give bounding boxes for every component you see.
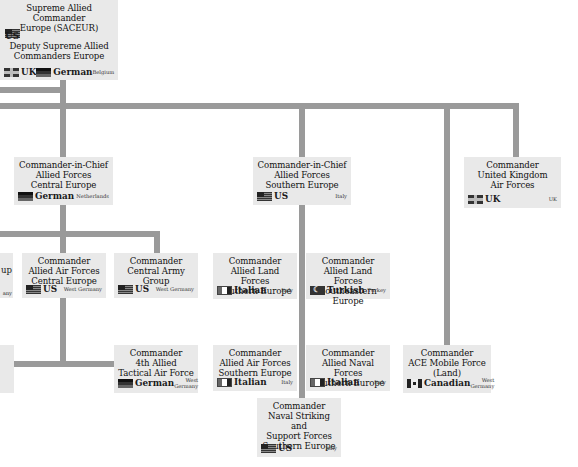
nationality: US <box>135 284 149 294</box>
italian-flag-icon <box>217 378 232 387</box>
node-title: Commander-in-Chief <box>257 160 347 170</box>
us-flag-icon <box>118 285 133 294</box>
node-aaf-central: Commander Allied Air Forces Central Euro… <box>22 253 106 298</box>
node-title: Commander <box>261 401 337 411</box>
nationality: US <box>43 284 57 294</box>
node-title: Allied Forces <box>257 170 347 180</box>
connector-line <box>14 361 114 367</box>
connector-line <box>513 103 519 158</box>
node-title: Southern Europe <box>257 180 347 190</box>
nationality: German <box>35 191 74 201</box>
node-cinc-south: Commander-in-Chief Allied Forces Souther… <box>253 157 351 205</box>
uk-flag-icon <box>468 195 483 204</box>
node-saceur: Supreme Allied Commander Europe (SACEUR)… <box>0 0 118 80</box>
location: Italy <box>374 379 386 385</box>
turkish-flag-icon <box>310 286 325 295</box>
location: Italy <box>281 379 293 385</box>
node-title: Commander <box>118 256 194 266</box>
location: any <box>3 290 12 296</box>
location: WestGermany <box>470 377 494 389</box>
us-flag-icon <box>26 285 41 294</box>
german-flag-icon <box>36 68 51 77</box>
location: Italy <box>281 287 293 293</box>
node-alf-southeast: Commander Allied Land Forces Southeaster… <box>306 253 390 299</box>
node-title: Support Forces <box>261 431 337 441</box>
node-alf-south: Commander Allied Land Forces Southern Eu… <box>213 253 297 299</box>
us-flag-icon <box>257 192 272 201</box>
node-4ataf: Commander 4th Allied Tactical Air Force … <box>114 345 198 393</box>
node-title: Supreme Allied Commander <box>4 3 114 23</box>
connector-line <box>0 87 66 93</box>
node-cinc-central: Commander-in-Chief Allied Forces Central… <box>14 157 113 205</box>
location: Italy <box>325 445 337 451</box>
node-partial-lower <box>0 345 14 393</box>
node-title: Central Europe <box>18 180 109 190</box>
connector-line <box>60 80 66 158</box>
node-title: Naval Striking and <box>261 411 337 431</box>
node-title: Commander <box>118 348 194 358</box>
nationality: Turkish <box>327 285 365 295</box>
us-flag-icon <box>261 444 276 453</box>
node-strikforsouth: Commander Naval Striking and Support For… <box>257 398 341 457</box>
node-title: Commander <box>26 256 102 266</box>
connector-line <box>0 231 160 237</box>
node-title: Commander <box>310 348 386 358</box>
nationality: Italian <box>234 377 267 387</box>
deputy-title: Deputy Supreme Allied <box>0 41 118 51</box>
location: Italy <box>335 193 347 199</box>
node-ukair: Commander United Kingdom Air Forces UKUK <box>464 157 561 208</box>
node-title: Commander <box>310 256 386 266</box>
german-flag-icon <box>118 379 133 388</box>
nationality: Italian <box>234 285 267 295</box>
location: UK <box>549 196 557 202</box>
location: WestGermany <box>174 377 198 389</box>
nationality: German <box>53 67 92 77</box>
nationality: Canadian <box>424 378 470 388</box>
node-title: Commander <box>217 256 293 266</box>
node-title: Air Forces <box>468 180 557 190</box>
node-title: Allied Naval Forces <box>310 358 386 378</box>
connector-line <box>0 103 519 109</box>
node-title: Allied Air Forces <box>26 266 102 276</box>
node-title: ACE Mobile Force <box>407 358 487 368</box>
connector-line <box>299 103 305 158</box>
node-title: Allied Land Forces <box>310 266 386 286</box>
nationality: US <box>278 443 292 453</box>
node-aaf-south: Commander Allied Air Forces Southern Eur… <box>213 345 297 391</box>
node-title: Central Army Group <box>118 266 194 286</box>
node-title: Allied Forces <box>18 170 109 180</box>
node-title: Commander-in-Chief <box>18 160 109 170</box>
node-title: Commander <box>468 160 557 170</box>
node-title: United Kingdom <box>468 170 557 180</box>
location: West Germany <box>64 286 102 292</box>
node-anf-south: Commander Allied Naval Forces Southern E… <box>306 345 390 391</box>
node-title: 4th Allied <box>118 358 194 368</box>
node-amf: Commander ACE Mobile Force (Land) Canadi… <box>403 345 491 393</box>
node-title: Allied Land Forces <box>217 266 293 286</box>
deputy-title: Commanders Europe <box>0 51 118 61</box>
italian-flag-icon <box>217 286 232 295</box>
italian-flag-icon <box>310 378 325 387</box>
nationality: German <box>135 378 174 388</box>
nationality: US <box>274 191 288 201</box>
node-title: Commander <box>217 348 293 358</box>
nationality: UK <box>485 194 500 204</box>
connector-line <box>444 103 450 346</box>
node-title: Allied Air Forces <box>217 358 293 368</box>
node-centag: Commander Central Army Group USWest Germ… <box>114 253 198 298</box>
connector-line <box>154 231 160 253</box>
connector-line <box>299 205 305 401</box>
node-partial-group: up any <box>0 253 13 298</box>
node-title: up <box>1 265 12 275</box>
uk-flag-icon <box>4 68 19 77</box>
canadian-flag-icon <box>407 379 422 388</box>
nationality: US <box>5 31 19 41</box>
location: Belgium <box>92 69 114 75</box>
location: Netherlands <box>76 193 109 199</box>
location: West Germany <box>156 286 194 292</box>
nationality: UK <box>21 67 36 77</box>
nationality: Italian <box>327 377 360 387</box>
german-flag-icon <box>18 192 33 201</box>
location: Turkey <box>368 287 386 293</box>
node-title: Commander <box>407 348 487 358</box>
